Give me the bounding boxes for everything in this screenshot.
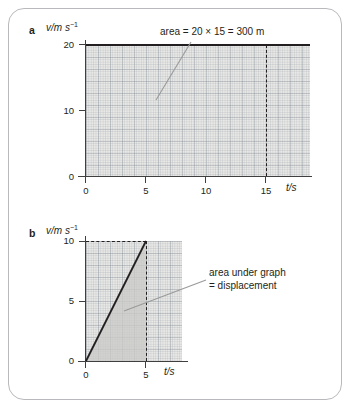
panel-b-leader-line: [0, 205, 358, 414]
figure-container: a v/m s−1 0 10 20 0 5 10 15 t/s: [0, 0, 358, 414]
panel-b: b v/m s−1 0 5 10 0 5 t/s: [0, 205, 358, 414]
panel-a: a v/m s−1 0 10 20 0 5 10 15 t/s: [0, 0, 358, 205]
panel-a-leader-line: [0, 0, 358, 205]
